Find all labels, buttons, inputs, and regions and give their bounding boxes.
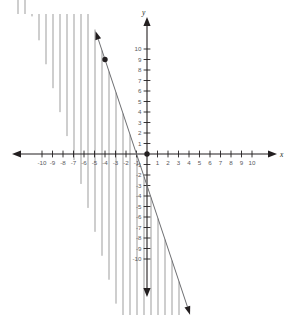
x-tick-label: 4 — [187, 159, 191, 166]
y-tick-label: -5 — [136, 203, 142, 210]
y-tick-label: 6 — [138, 87, 142, 94]
x-tick-label: -8 — [60, 159, 66, 166]
y-tick-label: 3 — [138, 119, 142, 126]
x-tick-label: 8 — [229, 159, 233, 166]
y-tick-label: -4 — [136, 192, 142, 199]
x-tick-label: 3 — [177, 159, 181, 166]
x-tick-label: -5 — [92, 159, 98, 166]
y-tick-label: 2 — [138, 129, 142, 136]
x-tick-label: 7 — [219, 159, 223, 166]
boundary-line — [98, 39, 187, 306]
x-tick-label: -7 — [71, 159, 77, 166]
y-tick-label: 5 — [138, 98, 142, 105]
y-tick-label: -9 — [136, 245, 142, 252]
y-tick-label: -6 — [136, 213, 142, 220]
y-tick-label: -3 — [136, 182, 142, 189]
y-tick-label: 1 — [138, 140, 142, 147]
x-tick-label: 5 — [198, 159, 202, 166]
x-axis-left-arrow — [12, 150, 21, 157]
x-tick-label: -9 — [50, 159, 56, 166]
boundary-line-end-arrow — [185, 306, 191, 315]
origin-point — [144, 151, 149, 156]
y-tick-label: -7 — [136, 224, 142, 231]
y-axis-label: y — [141, 8, 146, 17]
y-tick-label: -10 — [133, 255, 143, 262]
x-tick-label: -10 — [38, 159, 48, 166]
solution-region-hatching — [18, 0, 179, 315]
y-tick-label: -8 — [136, 234, 142, 241]
x-tick-label: 1 — [156, 159, 160, 166]
y-axis-bottom-arrow — [143, 288, 150, 297]
x-tick-label: 10 — [249, 159, 256, 166]
y-tick-label: 4 — [138, 108, 142, 115]
x-axis-label: x — [279, 150, 284, 159]
x-tick-label: -2 — [123, 159, 129, 166]
y-tick-label: 8 — [138, 66, 142, 73]
boundary-line-start-arrow — [95, 31, 101, 40]
graph-figure: -10-9-8-7-6-5-4-3-2-112345678910 1098765… — [0, 0, 292, 323]
coordinate-plane-svg: -10-9-8-7-6-5-4-3-2-112345678910 1098765… — [0, 0, 292, 323]
x-tick-label: -6 — [81, 159, 87, 166]
x-tick-label: -3 — [113, 159, 119, 166]
y-axis — [143, 17, 150, 297]
y-tick-label: -2 — [136, 171, 142, 178]
x-tick-label: 6 — [208, 159, 212, 166]
y-tick-label: 7 — [138, 77, 142, 84]
boundary-line — [95, 31, 190, 315]
y-tick-label: 9 — [138, 56, 142, 63]
y-axis-top-arrow — [143, 17, 150, 26]
x-tick-label: -4 — [102, 159, 108, 166]
x-tick-label: 9 — [240, 159, 244, 166]
x-axis-right-arrow — [268, 150, 277, 157]
plotted-point — [102, 57, 107, 62]
x-tick-label: 2 — [166, 159, 170, 166]
y-tick-label: 10 — [135, 45, 142, 52]
